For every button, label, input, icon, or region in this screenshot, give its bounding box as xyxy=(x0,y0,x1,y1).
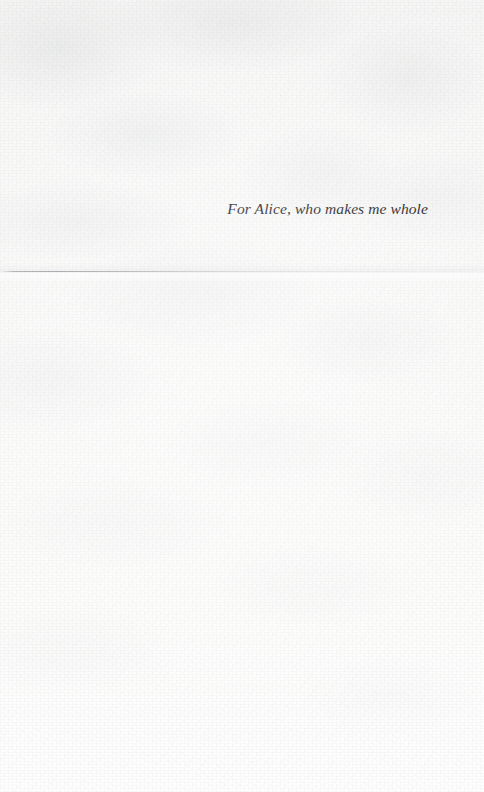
fold-crease-line xyxy=(0,271,484,272)
fold-crease-shading xyxy=(0,263,484,281)
dedication-text: For Alice, who makes me whole xyxy=(0,198,428,220)
dedication-page: For Alice, who makes me whole xyxy=(0,0,484,792)
paper-speckle-texture xyxy=(0,0,484,792)
